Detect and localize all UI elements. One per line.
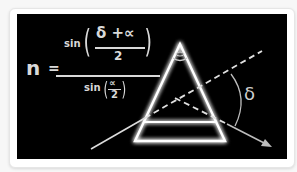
prism-triangle bbox=[135, 44, 225, 141]
deviation-arc bbox=[231, 74, 241, 126]
apex-angle-arc bbox=[173, 58, 187, 61]
refracted-ray-dashed bbox=[175, 98, 227, 124]
emergent-ray bbox=[227, 124, 268, 145]
deviation-label: δ bbox=[244, 83, 255, 104]
incident-ray bbox=[91, 118, 145, 149]
